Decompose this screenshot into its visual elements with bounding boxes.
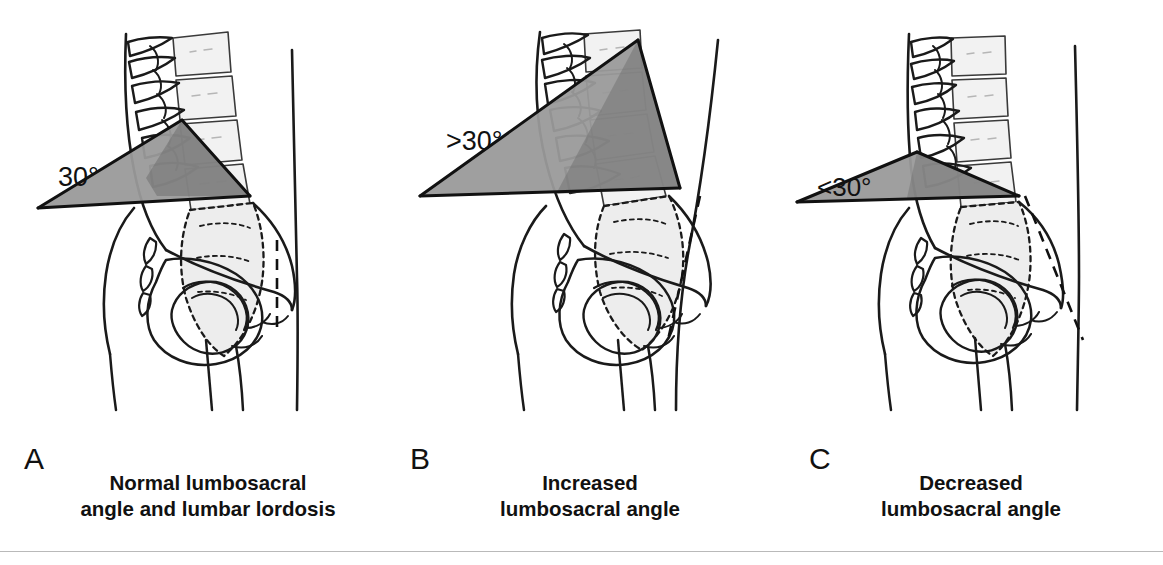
- panel-a-angle-label: 30°: [58, 162, 99, 192]
- caption-line-1: Increased: [418, 470, 762, 496]
- panel-a-illustration: 30°: [0, 10, 388, 430]
- caption-line-2: lumbosacral angle: [418, 496, 762, 522]
- bottom-divider: [0, 551, 1163, 552]
- panel-c-caption-text: Decreased lumbosacral angle: [799, 470, 1143, 522]
- panel-c-angle-label: <30°: [817, 172, 872, 202]
- panel-c: <30° C Decreased lumbosacral angle: [775, 0, 1163, 565]
- panel-a: 30° A Normal lumbosacral angle and lumba…: [0, 0, 388, 565]
- panel-c-illustration: <30°: [775, 10, 1163, 430]
- panel-a-caption-text: Normal lumbosacral angle and lumbar lord…: [34, 470, 382, 522]
- panel-b-angle-label: >30°: [446, 126, 503, 156]
- caption-line-1: Normal lumbosacral: [34, 470, 382, 496]
- figure-page: 30° A Normal lumbosacral angle and lumba…: [0, 0, 1163, 565]
- panel-b: >30° B Increased lumbosacral angle: [388, 0, 776, 565]
- caption-line-2: lumbosacral angle: [799, 496, 1143, 522]
- caption-line-2: angle and lumbar lordosis: [34, 496, 382, 522]
- panel-c-caption: C Decreased lumbosacral angle: [775, 432, 1163, 542]
- panel-b-illustration: >30°: [388, 10, 776, 430]
- panel-b-caption: B Increased lumbosacral angle: [388, 432, 776, 542]
- panel-b-caption-text: Increased lumbosacral angle: [418, 470, 762, 522]
- panel-a-caption: A Normal lumbosacral angle and lumbar lo…: [0, 432, 388, 542]
- caption-line-1: Decreased: [799, 470, 1143, 496]
